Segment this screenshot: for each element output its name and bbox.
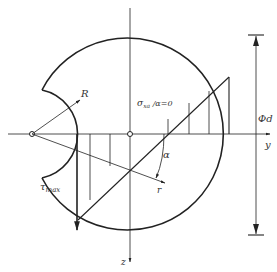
label-R: R — [80, 88, 89, 99]
label-phi-d: Φd — [258, 113, 273, 124]
ray-r-line — [32, 134, 165, 183]
cross-section-diagram: R r α σxa /α=0 τmax Φd y z — [0, 0, 277, 272]
diameter-bottom-arrow — [253, 224, 259, 234]
sigma-hatching — [168, 91, 209, 134]
label-sigma: σxa /α=0 — [137, 98, 173, 109]
label-r: r — [157, 185, 162, 195]
label-z-axis: z — [120, 257, 126, 267]
label-alpha: α — [163, 149, 170, 160]
label-tau-max: τmax — [40, 181, 60, 194]
diameter-top-arrow — [253, 36, 259, 46]
section-center-point — [128, 132, 133, 137]
radius-R-line — [32, 100, 80, 134]
label-y-axis: y — [264, 139, 271, 150]
tau-hatching — [90, 134, 110, 200]
